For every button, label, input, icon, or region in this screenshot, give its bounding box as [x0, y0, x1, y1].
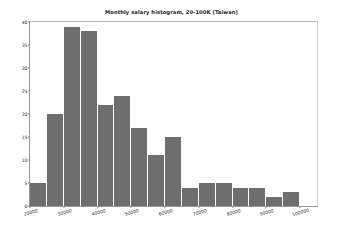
bar: [283, 192, 300, 206]
bar: [64, 27, 81, 206]
bar-series: [30, 22, 317, 206]
y-tick-mark: [28, 183, 30, 184]
y-tick-mark: [28, 91, 30, 92]
x-tick-mark: [30, 206, 31, 208]
bar: [47, 114, 64, 206]
y-tick-mark: [28, 22, 30, 23]
x-tick-mark: [97, 206, 98, 208]
x-tick-label: 60000: [158, 208, 173, 217]
x-tick-label: 50000: [124, 208, 139, 217]
x-tick-label: 30000: [57, 208, 72, 217]
x-tick-label: 80000: [226, 208, 241, 217]
y-tick-mark: [28, 137, 30, 138]
x-tick-label: 100000: [292, 208, 310, 218]
bar: [216, 183, 233, 206]
x-tick-label: 20000: [23, 208, 38, 217]
bar: [148, 155, 165, 206]
bar: [182, 188, 199, 206]
y-tick-mark: [28, 45, 30, 46]
bar: [266, 197, 283, 206]
x-tick-label: 40000: [91, 208, 106, 217]
y-tick-label: 30: [22, 66, 28, 71]
y-tick-label: 35: [22, 43, 28, 48]
x-tick-mark: [266, 206, 267, 208]
bar: [114, 96, 131, 206]
x-tick-mark: [165, 206, 166, 208]
x-tick-label: 90000: [259, 208, 274, 217]
chart-title: Monthly salary histogram, 20-100K (Taiwa…: [0, 9, 343, 15]
plot-area: 0510152025303540 20000300004000050000600…: [29, 21, 318, 207]
y-tick-label: 5: [25, 181, 28, 186]
y-tick-mark: [28, 114, 30, 115]
y-tick-mark: [28, 160, 30, 161]
y-tick-label: 25: [22, 89, 28, 94]
bar: [165, 137, 182, 206]
bar: [233, 188, 250, 206]
chart-figure: Monthly salary histogram, 20-100K (Taiwa…: [0, 0, 343, 237]
bar: [81, 31, 98, 206]
bar: [30, 183, 47, 206]
bar: [131, 128, 148, 206]
bar: [98, 105, 115, 206]
bar: [249, 188, 266, 206]
x-tick-mark: [232, 206, 233, 208]
y-tick-label: 10: [22, 158, 28, 163]
y-tick-mark: [28, 68, 30, 69]
y-tick-label: 20: [22, 112, 28, 117]
bar: [199, 183, 216, 206]
y-tick-label: 0: [25, 204, 28, 209]
y-tick-label: 15: [22, 135, 28, 140]
x-tick-mark: [63, 206, 64, 208]
x-tick-mark: [131, 206, 132, 208]
y-tick-label: 40: [22, 20, 28, 25]
x-tick-label: 70000: [192, 208, 207, 217]
x-tick-mark: [300, 206, 301, 208]
x-tick-mark: [198, 206, 199, 208]
